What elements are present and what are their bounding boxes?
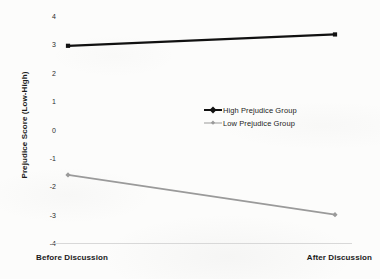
x-axis-line <box>52 243 352 244</box>
x-axis-label-after: After Discussion <box>307 253 372 262</box>
data-point-marker <box>65 172 70 177</box>
y-axis-tick: -1 <box>36 154 56 161</box>
legend-item[interactable]: Low Prejudice Group <box>204 117 324 129</box>
series-line <box>68 34 335 45</box>
chart-legend: High Prejudice GroupLow Prejudice Group <box>204 104 324 130</box>
data-point-marker <box>332 212 337 217</box>
y-axis-tick: 4 <box>36 13 56 20</box>
y-axis-title: Prejudice Score (Low-High) <box>18 35 32 215</box>
legend-item-label: High Prejudice Group <box>222 106 297 115</box>
y-axis-tick: 0 <box>36 126 56 133</box>
y-axis-tick: 1 <box>36 98 56 105</box>
legend-item[interactable]: High Prejudice Group <box>204 104 324 116</box>
x-axis-label-before: Before Discussion <box>36 253 108 262</box>
y-axis-tick: -2 <box>36 183 56 190</box>
series-line <box>68 175 335 215</box>
legend-item-label: Low Prejudice Group <box>222 119 295 128</box>
y-axis-tick: 2 <box>36 69 56 76</box>
data-point-marker <box>333 32 337 36</box>
y-axis-tick: 3 <box>36 41 56 48</box>
legend-marker-icon <box>204 105 222 115</box>
legend-marker-icon <box>204 118 222 128</box>
chart-figure: Prejudice Score (Low-High) 43210-1-2-3-4… <box>0 0 380 279</box>
data-point-marker <box>66 44 70 48</box>
y-axis-tick: -3 <box>36 211 56 218</box>
